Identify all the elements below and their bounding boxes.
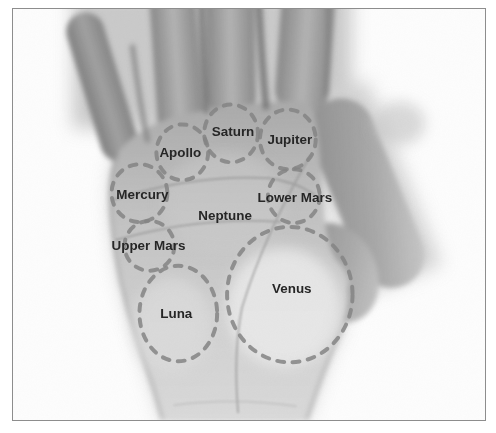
mount-label-venus: Venus (272, 281, 312, 296)
mount-label-saturn: Saturn (212, 124, 255, 139)
mount-label-mercury: Mercury (116, 187, 169, 202)
mount-label-apollo: Apollo (159, 145, 201, 160)
figure-frame: ApolloSaturnJupiterMercuryLower MarsNept… (12, 8, 486, 421)
mount-label-neptune: Neptune (198, 208, 252, 223)
mount-label-lower-mars: Lower Mars (257, 190, 332, 205)
mount-label-upper-mars: Upper Mars (111, 238, 185, 253)
mount-label-jupiter: Jupiter (267, 132, 313, 147)
figure-canvas: ApolloSaturnJupiterMercuryLower MarsNept… (0, 0, 496, 433)
palm-photo-diagram: ApolloSaturnJupiterMercuryLower MarsNept… (13, 9, 485, 420)
mount-label-luna: Luna (160, 306, 193, 321)
